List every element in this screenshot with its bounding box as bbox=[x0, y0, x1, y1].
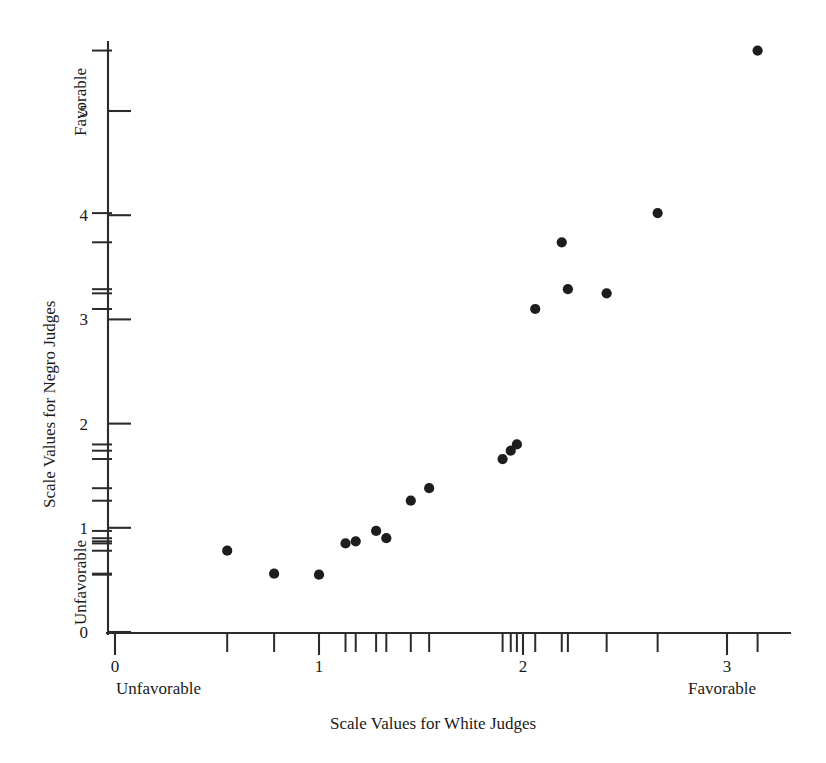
data-point bbox=[406, 496, 416, 506]
data-point bbox=[530, 304, 540, 314]
y-tick-label: 2 bbox=[70, 415, 88, 432]
data-point bbox=[314, 570, 324, 580]
data-point bbox=[498, 454, 508, 464]
scatter-plot-figure: 0123 012345 Scale Values for Negro Judge… bbox=[0, 0, 826, 763]
x-tick-label: 1 bbox=[315, 658, 324, 675]
x-axis-high-label: Favorable bbox=[688, 680, 756, 697]
data-point bbox=[340, 538, 350, 548]
y-tick-label: 1 bbox=[70, 519, 88, 536]
data-point bbox=[563, 284, 573, 294]
y-tick-label: 4 bbox=[70, 207, 88, 224]
data-point bbox=[512, 439, 522, 449]
data-point bbox=[424, 483, 434, 493]
data-point bbox=[653, 208, 663, 218]
x-tick-label: 3 bbox=[723, 658, 732, 675]
x-axis-rug-ticks bbox=[227, 634, 757, 652]
data-point bbox=[351, 536, 361, 546]
x-tick-label: 2 bbox=[519, 658, 528, 675]
axes-group bbox=[107, 42, 790, 634]
y-axis-high-label: Favorable bbox=[72, 68, 89, 136]
data-point bbox=[557, 237, 567, 247]
x-tick-label: 0 bbox=[111, 658, 120, 675]
y-axis-major-ticks bbox=[108, 111, 131, 632]
data-point bbox=[269, 569, 279, 579]
x-axis-title: Scale Values for White Judges bbox=[330, 715, 536, 732]
x-axis-low-label: Unfavorable bbox=[116, 680, 201, 697]
data-point bbox=[381, 533, 391, 543]
y-axis-low-label: Unfavorable bbox=[72, 540, 89, 625]
x-axis-major-ticks bbox=[115, 633, 727, 655]
data-points-group bbox=[222, 45, 763, 579]
y-tick-label: 3 bbox=[70, 311, 88, 328]
data-point bbox=[602, 288, 612, 298]
y-tick-label: 0 bbox=[70, 624, 88, 641]
plot-canvas bbox=[0, 0, 826, 763]
data-point bbox=[222, 546, 232, 556]
y-axis-title: Scale Values for Negro Judges bbox=[41, 301, 58, 508]
data-point bbox=[753, 45, 763, 55]
data-point bbox=[371, 526, 381, 536]
